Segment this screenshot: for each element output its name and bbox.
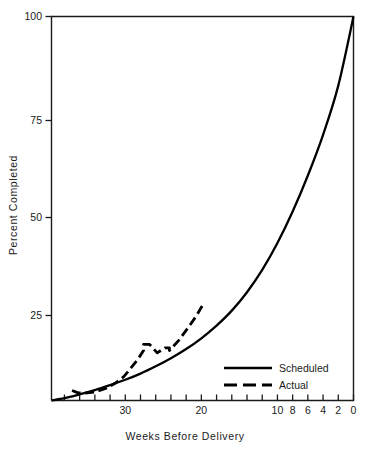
y-tick-label-100: 100	[24, 10, 42, 22]
series-line-actual	[72, 306, 202, 393]
chart-legend: Scheduled Actual	[224, 362, 329, 391]
plot-frame	[52, 17, 354, 401]
y-tick-label-50: 50	[30, 211, 42, 223]
x-tick-label-0: 0	[351, 404, 357, 416]
x-tick-label-10: 10	[272, 404, 284, 416]
x-axis-tick-labels: 30201086420	[119, 404, 356, 416]
x-tick-label-6: 6	[305, 404, 311, 416]
y-axis-title: Percent Completed	[7, 155, 19, 255]
x-tick-label-8: 8	[290, 404, 296, 416]
legend-label-scheduled: Scheduled	[279, 362, 329, 374]
frame-rect	[52, 17, 354, 401]
x-tick-label-4: 4	[320, 404, 326, 416]
x-tick-label-2: 2	[335, 404, 341, 416]
chart-figure: 100 75 50 25 30201086420 Weeks Before De…	[0, 0, 370, 450]
y-axis-tick-labels: 100 75 50 25	[24, 10, 42, 321]
x-axis-title: Weeks Before Delivery	[125, 430, 244, 442]
y-tick-label-75: 75	[30, 114, 42, 126]
y-axis-ticks	[46, 17, 52, 316]
y-tick-label-25: 25	[30, 309, 42, 321]
x-tick-label-20: 20	[196, 404, 208, 416]
series-line-scheduled	[52, 17, 354, 401]
x-tick-label-30: 30	[119, 404, 131, 416]
progress-s-curve-chart: 100 75 50 25 30201086420 Weeks Before De…	[0, 0, 370, 450]
legend-label-actual: Actual	[279, 379, 308, 391]
data-series-group	[52, 17, 354, 401]
x-axis-ticks	[64, 395, 353, 401]
